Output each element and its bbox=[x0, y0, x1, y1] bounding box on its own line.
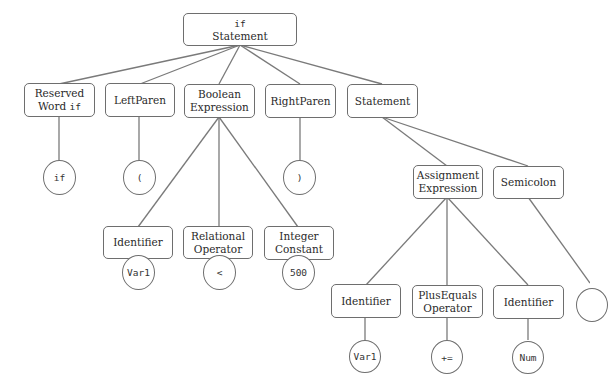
token-left-paren-text: ( bbox=[137, 172, 143, 183]
token-plus-equals-text: += bbox=[441, 352, 452, 363]
token-semicolon bbox=[576, 288, 608, 322]
node-left-paren: LeftParen bbox=[105, 83, 175, 117]
node-reserved-word-label: Reserved bbox=[35, 87, 85, 100]
token-right-paren: ) bbox=[283, 160, 316, 195]
token-500-text: 500 bbox=[290, 267, 307, 278]
node-if-statement-keyword: if bbox=[234, 17, 245, 30]
token-500: 500 bbox=[282, 255, 315, 290]
node-semicolon: Semicolon bbox=[493, 166, 564, 199]
node-relational-operator-line1: Relational bbox=[191, 230, 245, 243]
node-statement: Statement bbox=[347, 84, 418, 118]
token-right-paren-text: ) bbox=[297, 172, 303, 183]
token-var1-bool-text: Var1 bbox=[127, 267, 150, 278]
node-plus-equals-line1: PlusEquals bbox=[418, 289, 477, 302]
token-var1-assign: Var1 bbox=[349, 340, 381, 373]
node-right-paren: RightParen bbox=[265, 84, 336, 118]
node-boolean-expression: Boolean Expression bbox=[184, 84, 255, 118]
node-if-statement-label: Statement bbox=[212, 30, 267, 43]
node-identifier-bool-label: Identifier bbox=[113, 236, 163, 249]
node-identifier-left: Identifier bbox=[331, 284, 401, 318]
token-less-than: < bbox=[203, 255, 236, 290]
node-reserved-word-text: Word bbox=[38, 100, 69, 112]
node-assignment-expression-line1: Assignment bbox=[417, 169, 479, 182]
token-less-than-text: < bbox=[217, 267, 223, 278]
node-if-statement: if Statement bbox=[183, 13, 297, 46]
node-plus-equals-operator: PlusEquals Operator bbox=[412, 285, 483, 318]
node-boolean-expression-line1: Boolean bbox=[198, 88, 241, 101]
node-reserved-word-code: if bbox=[70, 101, 81, 112]
node-reserved-word-line2: Word if bbox=[38, 100, 81, 113]
node-identifier-right-label: Identifier bbox=[504, 296, 554, 309]
node-assignment-expression-line2: Expression bbox=[419, 182, 478, 195]
node-boolean-expression-line2: Expression bbox=[190, 101, 249, 114]
token-var1-assign-text: Var1 bbox=[354, 351, 377, 362]
node-statement-label: Statement bbox=[355, 95, 410, 108]
token-num-text: Num bbox=[519, 352, 536, 363]
node-relational-operator-line2: Operator bbox=[194, 243, 242, 256]
token-num: Num bbox=[512, 341, 544, 374]
node-plus-equals-line2: Operator bbox=[423, 302, 471, 315]
token-left-paren: ( bbox=[123, 160, 156, 195]
node-identifier-right: Identifier bbox=[493, 285, 564, 319]
node-right-paren-label: RightParen bbox=[271, 95, 331, 108]
token-if-text: if bbox=[54, 172, 65, 183]
node-assignment-expression: Assignment Expression bbox=[413, 165, 483, 199]
node-reserved-word-if: Reserved Word if bbox=[24, 83, 95, 117]
node-identifier-left-label: Identifier bbox=[341, 295, 391, 308]
token-if: if bbox=[43, 160, 76, 195]
token-var1-bool: Var1 bbox=[122, 255, 155, 290]
node-left-paren-label: LeftParen bbox=[114, 94, 166, 107]
token-plus-equals: += bbox=[431, 340, 463, 374]
node-integer-constant-line1: Integer bbox=[279, 230, 318, 243]
node-semicolon-label: Semicolon bbox=[501, 176, 556, 189]
